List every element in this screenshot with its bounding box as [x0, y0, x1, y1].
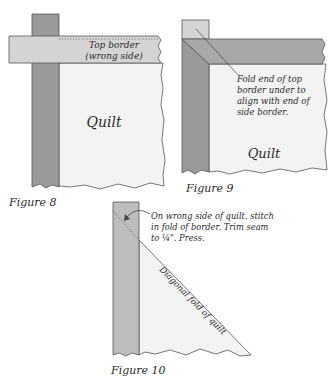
figure-9-note-line-1: Fold end of top — [236, 74, 303, 84]
figure-10-note-line-2: in fold of border. Trim seam — [151, 222, 269, 232]
figure-10: On wrong side of quilt, stitch in fold o… — [110, 202, 274, 377]
figure-8-caption: Figure 8 — [8, 196, 57, 209]
figure-9-note-line-4: side border. — [237, 107, 288, 117]
figure-10-note-line-3: to ¼". Press. — [151, 233, 205, 243]
quilt-border-diagram: Top border (wrong side) Quilt Figure 8 F… — [0, 0, 335, 387]
figure-9-note-line-2: border under to — [237, 85, 306, 95]
figure-9-note-line-3: align with end of — [237, 96, 311, 106]
figure-8-top-border-label: Top border — [89, 40, 140, 50]
figure-10-note-line-1: On wrong side of quilt, stitch — [151, 211, 274, 221]
figure-9-quilt-label: Quilt — [248, 146, 281, 161]
figure-9-caption: Figure 9 — [185, 182, 234, 195]
figure-10-caption: Figure 10 — [110, 364, 166, 377]
figure-8-quilt-label: Quilt — [86, 114, 121, 130]
figure-9: Fold end of top border under to align wi… — [182, 20, 327, 195]
figure-9-folded-top-end — [182, 20, 209, 39]
figure-8: Top border (wrong side) Quilt Figure 8 — [8, 14, 165, 209]
figure-8-top-border-sublabel: (wrong side) — [85, 51, 143, 61]
